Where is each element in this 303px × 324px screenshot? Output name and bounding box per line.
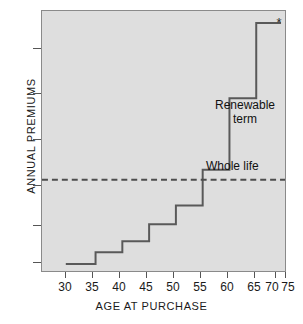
plot-canvas: * bbox=[42, 11, 285, 271]
x-axis-tick bbox=[119, 272, 120, 278]
x-axis-tick bbox=[146, 272, 147, 278]
x-axis-tick-label: 60 bbox=[212, 280, 242, 294]
y-axis-tick bbox=[33, 225, 41, 226]
x-axis-tick bbox=[65, 272, 66, 278]
x-axis-tick bbox=[285, 272, 286, 278]
y-axis-title: ANNUAL PREMIUMS bbox=[25, 21, 37, 251]
x-axis-tick-label: 30 bbox=[50, 280, 80, 294]
x-axis-tick bbox=[275, 272, 276, 278]
annotation-renewable-line1: Renewable bbox=[205, 98, 285, 112]
x-axis-title: AGE AT PURCHASE bbox=[0, 300, 303, 312]
y-axis-tick bbox=[33, 185, 41, 186]
chart-figure: * Renewable term Whole life ANNUAL PREMI… bbox=[0, 0, 303, 324]
x-axis-tick-label: 55 bbox=[185, 280, 215, 294]
annotation-whole-life: Whole life bbox=[206, 159, 259, 173]
x-axis-tick bbox=[227, 272, 228, 278]
y-axis-tick bbox=[33, 48, 41, 49]
y-axis-tick bbox=[33, 139, 41, 140]
x-axis-tick-label: 50 bbox=[158, 280, 188, 294]
x-axis-tick bbox=[254, 272, 255, 278]
y-axis-tick bbox=[33, 93, 41, 94]
annotation-renewable-line2: term bbox=[205, 112, 285, 126]
renewable-term-step-line bbox=[66, 23, 281, 264]
y-axis-tick bbox=[33, 262, 41, 263]
x-axis-tick bbox=[173, 272, 174, 278]
x-axis-tick-label: 40 bbox=[104, 280, 134, 294]
x-axis-tick-label: 75 bbox=[273, 280, 303, 294]
plot-area: * Renewable term Whole life bbox=[41, 10, 286, 272]
x-axis-tick-label: 45 bbox=[131, 280, 161, 294]
x-axis-tick bbox=[92, 272, 93, 278]
end-asterisk-marker: * bbox=[277, 15, 282, 30]
x-axis-tick-label: 35 bbox=[77, 280, 107, 294]
x-axis-tick bbox=[200, 272, 201, 278]
annotation-renewable-term: Renewable term bbox=[205, 98, 285, 126]
